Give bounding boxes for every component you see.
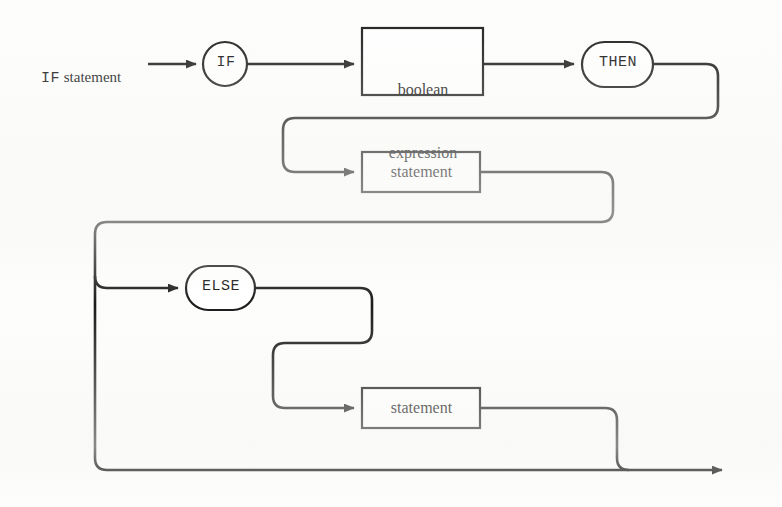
track-then-wrap-to-row2 bbox=[283, 64, 718, 172]
track-left-rail-down bbox=[95, 276, 722, 470]
node-else-statement-label: statement bbox=[362, 399, 481, 417]
track-else-to-statement bbox=[255, 288, 372, 408]
node-then-statement-label: statement bbox=[362, 163, 481, 181]
track-branch-to-else bbox=[95, 276, 178, 288]
track-then-statement-exit bbox=[95, 172, 613, 276]
entry-label-nonterminal: statement bbox=[60, 69, 121, 85]
entry-label-keyword: IF bbox=[41, 70, 60, 87]
node-then-terminal-label: THEN bbox=[582, 54, 654, 71]
node-else-terminal-label: ELSE bbox=[186, 278, 256, 295]
boolean-expression-line-1: boolean bbox=[362, 79, 484, 100]
entry-label: IF statement bbox=[26, 52, 176, 104]
boolean-expression-line-2: expression bbox=[362, 142, 484, 163]
node-if-terminal-label: IF bbox=[204, 54, 248, 71]
syntax-diagram-page: IF statement IF boolean expression THEN … bbox=[0, 0, 782, 507]
track-else-statement-exit bbox=[480, 408, 629, 470]
